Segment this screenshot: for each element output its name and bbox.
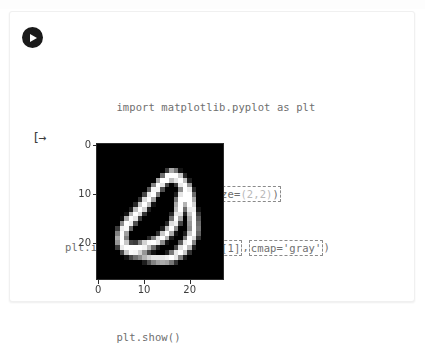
- annotation-box-cmap-arg: cmap='gray': [249, 240, 324, 256]
- y-axis-tick-label: 0: [67, 139, 91, 150]
- code-line-import: import matplotlib.pyplot as plt: [65, 80, 405, 98]
- x-axis-tick: [190, 280, 191, 284]
- code-text-imshow-close: ): [323, 241, 329, 253]
- top-cut-off-strip: [0, 0, 425, 9]
- y-axis-tick-label: 10: [67, 188, 91, 199]
- notebook-cell-card: import matplotlib.pyplot as plt plt.figu…: [9, 11, 415, 302]
- matplotlib-figure: 0102001020: [50, 136, 250, 301]
- y-axis-tick-label: 20: [67, 237, 91, 248]
- code-text-import: import matplotlib.pyplot as plt: [116, 101, 315, 113]
- x-axis-tick: [144, 280, 145, 284]
- code-line-show: plt.show(): [65, 310, 405, 328]
- x-axis-tick-label: 20: [178, 284, 202, 295]
- y-axis-tick: [93, 194, 97, 195]
- run-cell-button[interactable]: [22, 27, 43, 48]
- x-axis-tick-label: 0: [86, 284, 110, 295]
- code-text-show: plt.show(): [116, 331, 180, 343]
- output-prompt-marker: [→: [32, 131, 48, 145]
- play-icon: [30, 34, 37, 42]
- digit-image: [97, 144, 223, 279]
- x-axis-tick: [98, 280, 99, 284]
- y-axis-tick: [93, 243, 97, 244]
- x-axis-tick-label: 10: [132, 284, 156, 295]
- code-text-figure-close: ): [273, 188, 279, 200]
- code-text-cmap-arg: cmap='gray': [251, 242, 322, 254]
- y-axis-tick: [93, 145, 97, 146]
- plot-axes: [96, 143, 224, 280]
